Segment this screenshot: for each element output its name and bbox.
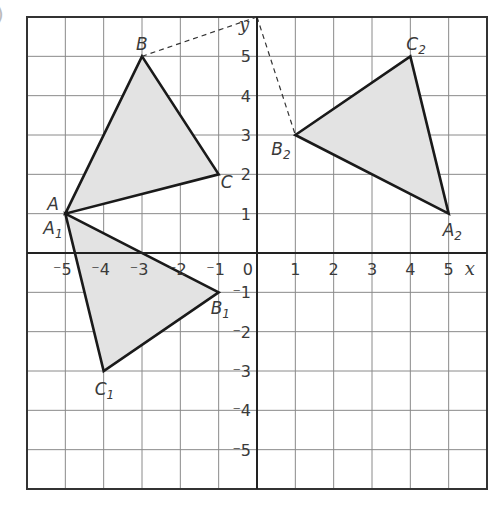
vertex-label: C (221, 172, 233, 192)
y-tick-label: ⁻1 (232, 283, 251, 302)
x-tick-label: ⁻3 (130, 260, 149, 279)
vertex-label: A2 (442, 220, 462, 243)
x-tick-label: 5 (444, 260, 454, 279)
vertex-label: A (46, 194, 59, 214)
x-tick-label: ⁻4 (91, 260, 110, 279)
y-tick-label: 3 (241, 126, 251, 145)
vertex-label: A1 (42, 218, 62, 241)
x-tick-label: ⁻1 (206, 260, 225, 279)
x-tick-label: 3 (367, 260, 377, 279)
y-tick-label: ⁻3 (232, 362, 251, 381)
y-axis-label: y (238, 14, 250, 35)
y-tick-label: 2 (241, 165, 251, 184)
vertex-label: B (136, 34, 148, 54)
dashed-line (257, 17, 295, 135)
y-tick-label: 1 (241, 205, 251, 224)
x-tick-label: 4 (405, 260, 415, 279)
y-tick-label: ⁻4 (232, 401, 251, 420)
y-tick-label: 4 (241, 87, 251, 106)
x-tick-label: 1 (290, 260, 300, 279)
corner-mark: ) (0, 2, 4, 26)
origin-label: 0 (243, 260, 253, 279)
y-tick-label: ⁻2 (232, 323, 251, 342)
x-tick-label: 2 (329, 260, 339, 279)
y-tick-label: ⁻5 (232, 441, 251, 460)
x-axis-label: x (465, 258, 475, 279)
vertex-label: C1 (95, 379, 115, 402)
vertex-label: B1 (211, 298, 230, 321)
x-tick-label: ⁻5 (53, 260, 72, 279)
vertex-label: B2 (271, 139, 290, 162)
x-tick-label: ⁻2 (168, 260, 187, 279)
vertex-label: C2 (406, 34, 426, 57)
coordinate-plane: ⁻5⁻4⁻3⁻2⁻11234554321⁻1⁻2⁻3⁻4⁻50xy AA1BCB… (0, 0, 503, 510)
y-tick-label: 5 (241, 47, 251, 66)
coordinate-grid-figure: ) ⁻5⁻4⁻3⁻2⁻11234554321⁻1⁻2⁻3⁻4⁻50xy AA1B… (0, 0, 503, 510)
